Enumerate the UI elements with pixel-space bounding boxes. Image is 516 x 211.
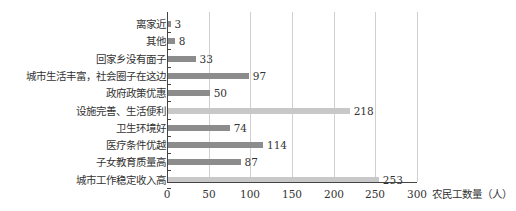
value-label: 8 xyxy=(179,35,186,47)
gridline xyxy=(375,12,376,182)
value-label: 87 xyxy=(245,156,258,168)
bar-chart: 离家近其他回家乡没有面子城市生活丰富，社会圈子在这边政府政策优惠设施完善、生活便… xyxy=(0,0,516,211)
x-tick: 0 xyxy=(164,188,171,200)
category-label: 设施完善、生活便利 xyxy=(76,105,166,117)
value-label: 218 xyxy=(354,105,374,117)
value-label: 97 xyxy=(253,70,266,82)
x-tick: 100 xyxy=(240,188,260,200)
category-label: 其他 xyxy=(146,35,166,47)
value-label: 3 xyxy=(175,18,182,30)
x-tick: 200 xyxy=(324,188,344,200)
y-tick xyxy=(167,153,171,154)
gridline xyxy=(292,12,293,182)
y-tick xyxy=(167,84,171,85)
x-axis xyxy=(167,182,417,183)
y-tick xyxy=(167,101,171,102)
category-label: 回家乡没有面子 xyxy=(96,53,166,65)
bar xyxy=(168,90,210,96)
x-tick: 150 xyxy=(282,188,302,200)
y-tick xyxy=(167,32,171,33)
value-label: 253 xyxy=(383,174,403,186)
value-label: 74 xyxy=(234,122,247,134)
value-label: 33 xyxy=(200,53,213,65)
bar xyxy=(168,56,196,62)
category-label: 医疗条件优越 xyxy=(106,139,166,151)
x-axis-label: 农民工数量（人） xyxy=(432,188,512,200)
y-tick xyxy=(167,67,171,68)
bar xyxy=(168,125,230,131)
y-tick xyxy=(167,119,171,120)
y-tick xyxy=(167,49,171,50)
gridline xyxy=(334,12,335,182)
bar xyxy=(168,73,249,79)
y-tick xyxy=(167,136,171,137)
category-label: 城市工作稳定收入高 xyxy=(76,174,166,186)
x-tick: 300 xyxy=(407,188,427,200)
bar xyxy=(168,108,350,114)
category-label: 政府政策优惠 xyxy=(106,87,166,99)
x-tick: 50 xyxy=(202,188,215,200)
y-tick xyxy=(167,170,171,171)
bar xyxy=(168,159,241,165)
category-label: 城市生活丰富，社会圈子在这边 xyxy=(26,70,166,82)
value-label: 50 xyxy=(214,87,227,99)
y-axis xyxy=(167,12,168,183)
value-label: 114 xyxy=(267,139,287,151)
bar xyxy=(168,142,263,148)
category-label: 离家近 xyxy=(136,18,166,30)
bar xyxy=(168,21,171,27)
gridline xyxy=(417,12,418,182)
category-label: 子女教育质量高 xyxy=(96,156,166,168)
bar xyxy=(168,38,175,44)
gridline xyxy=(209,12,210,182)
category-label: 卫生环境好 xyxy=(116,122,166,134)
x-tick: 250 xyxy=(365,188,385,200)
